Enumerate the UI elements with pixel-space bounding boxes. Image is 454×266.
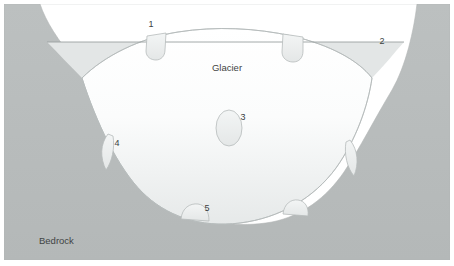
surface-crevasse-right (282, 34, 303, 62)
callout-4: 4 (114, 138, 119, 148)
callout-5: 5 (204, 203, 209, 213)
glacier-cross-section-figure: Glacier Bedrock 1 2 3 4 5 (0, 0, 454, 266)
callout-1: 1 (148, 19, 153, 29)
internal-cavity (216, 110, 242, 146)
glacier-label: Glacier (212, 62, 242, 73)
callout-3: 3 (240, 112, 245, 122)
surface-crevasse-left (146, 33, 166, 60)
bedrock-label: Bedrock (39, 235, 74, 246)
diagram-canvas: Glacier Bedrock 1 2 3 4 5 (0, 0, 454, 266)
callout-2: 2 (379, 36, 384, 46)
